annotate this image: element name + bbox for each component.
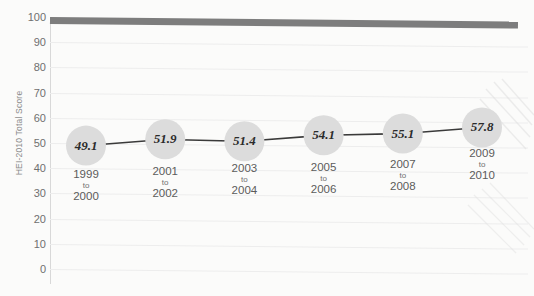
y-tick-100: 100	[20, 12, 46, 23]
category-start-year: 2003	[232, 162, 258, 175]
category-start-year: 2009	[469, 147, 495, 160]
category-start-year: 2001	[152, 165, 178, 178]
category-end-year: 2004	[232, 184, 258, 197]
category-start-year: 2007	[390, 158, 416, 171]
x-category-2009-2010: 2009to2010	[469, 147, 495, 182]
y-tick-10: 10	[20, 238, 46, 249]
x-category-2007-2008: 2007to2008	[390, 158, 416, 193]
data-label-2007-to-2008: 55.1	[391, 126, 414, 142]
series-line-and-markers	[50, 17, 528, 282]
category-to-word: to	[469, 160, 495, 169]
series-segment-1	[179, 140, 230, 141]
data-label-2009-to-2010: 57.8	[471, 119, 494, 135]
category-end-year: 2000	[73, 190, 99, 203]
y-tick-50: 50	[20, 138, 46, 149]
category-to-word: to	[152, 178, 178, 187]
plot-area: 49.151.951.454.155.157.8 1999to20002001t…	[50, 17, 528, 282]
category-end-year: 2008	[390, 180, 416, 193]
data-label-1999-to-2000: 49.1	[75, 138, 98, 154]
y-tick-20: 20	[20, 213, 46, 224]
data-label-2003-to-2004: 51.4	[233, 133, 256, 149]
category-to-word: to	[232, 175, 258, 184]
series-segment-3	[338, 134, 389, 135]
x-category-1999-2000: 1999to2000	[73, 168, 99, 203]
y-tick-0: 0	[20, 264, 46, 275]
y-axis-tick-labels: 1009080706050403020100	[14, 0, 46, 296]
x-category-2001-2002: 2001to2002	[152, 165, 178, 200]
category-start-year: 2005	[311, 161, 337, 174]
y-tick-40: 40	[20, 163, 46, 174]
category-to-word: to	[390, 171, 416, 180]
category-end-year: 2006	[311, 183, 337, 196]
y-tick-30: 30	[20, 188, 46, 199]
y-tick-90: 90	[20, 37, 46, 48]
x-category-2003-2004: 2003to2004	[232, 162, 258, 197]
x-category-2005-2006: 2005to2006	[311, 161, 337, 196]
series-segment-4	[417, 129, 468, 133]
category-to-word: to	[73, 181, 99, 190]
data-label-2001-to-2002: 51.9	[154, 131, 177, 147]
category-end-year: 2002	[152, 187, 178, 200]
category-to-word: to	[311, 174, 337, 183]
category-end-year: 2010	[469, 169, 495, 182]
category-start-year: 1999	[73, 168, 99, 181]
y-tick-70: 70	[20, 87, 46, 98]
series-segment-2	[258, 136, 309, 140]
series-segment-0	[100, 140, 151, 144]
y-tick-60: 60	[20, 112, 46, 123]
data-label-2005-to-2006: 54.1	[312, 127, 335, 143]
y-tick-80: 80	[20, 62, 46, 73]
